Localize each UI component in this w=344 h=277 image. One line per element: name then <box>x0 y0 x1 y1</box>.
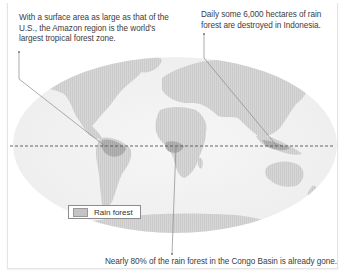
legend-label: Rain forest <box>94 208 133 217</box>
congo-callout: Nearly 80% of the rain forest in the Con… <box>105 257 344 268</box>
rain-forest-swatch <box>73 208 88 217</box>
indonesia-callout: Daily some 6,000 hectares of rain forest… <box>201 10 331 31</box>
top-clip-strip <box>0 0 344 3</box>
amazon-callout: With a surface area as large as that of … <box>19 13 179 45</box>
map-legend: Rain forest <box>68 205 141 219</box>
